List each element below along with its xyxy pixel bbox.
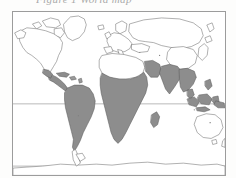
lesser-antilles-shaded bbox=[78, 78, 82, 83]
korea-japan bbox=[198, 44, 208, 61]
arabian-peninsula-shaded bbox=[145, 60, 162, 77]
south-america-shaded bbox=[65, 85, 96, 151]
island-speck-3 bbox=[159, 55, 160, 56]
new-zealand bbox=[222, 138, 225, 147]
india-shaded bbox=[160, 64, 182, 94]
island-speck-1 bbox=[209, 122, 210, 123]
iberia bbox=[104, 47, 113, 54]
central-america-shaded bbox=[49, 75, 68, 91]
map-frame bbox=[12, 11, 226, 176]
antarctica bbox=[13, 162, 225, 175]
iceland bbox=[98, 25, 104, 30]
figure-caption: Figure 1 World map bbox=[36, 0, 196, 5]
kamchatka bbox=[207, 23, 214, 32]
scanned-page: Figure 1 World map bbox=[0, 0, 236, 178]
world-map bbox=[13, 12, 225, 175]
java-shaded bbox=[196, 107, 210, 112]
new-guinea-shaded bbox=[214, 101, 225, 108]
australia bbox=[194, 114, 223, 139]
scandinavia bbox=[116, 21, 127, 34]
madagascar-shaded bbox=[151, 112, 160, 128]
arctic-island-small bbox=[33, 22, 42, 29]
philippines-shaded bbox=[205, 79, 212, 90]
borneo-shaded bbox=[197, 94, 212, 105]
japan-north bbox=[205, 36, 212, 43]
island-speck-2 bbox=[139, 52, 140, 53]
sub-saharan-africa-shaded bbox=[100, 72, 148, 143]
cuba-shaded bbox=[57, 72, 70, 77]
southeast-asia-shaded bbox=[179, 68, 196, 92]
canadian-arctic-islands bbox=[43, 18, 61, 28]
island-speck-4 bbox=[78, 115, 79, 116]
turkey-caucasus bbox=[132, 44, 150, 53]
north-america bbox=[19, 28, 63, 77]
greenland bbox=[64, 16, 87, 41]
tasmania bbox=[212, 139, 217, 144]
island-speck-5 bbox=[194, 109, 195, 110]
hispaniola-shaded bbox=[69, 76, 76, 80]
